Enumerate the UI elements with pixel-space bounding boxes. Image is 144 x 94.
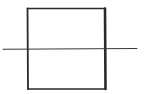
horizontal-line <box>3 49 137 50</box>
sketch-canvas <box>0 0 144 94</box>
